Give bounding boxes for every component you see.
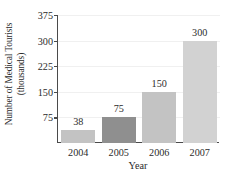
bars-layer: 3875150300: [58, 15, 220, 143]
bar-chart: Number of Medical Tourists (thousands) 3…: [0, 0, 228, 179]
bar-value-label: 300: [183, 27, 217, 38]
x-tick-label: 2005: [96, 147, 142, 158]
y-axis-title-line-1: Number of Medical Tourists: [4, 4, 16, 144]
bar: [61, 130, 95, 143]
bar-value-label: 150: [142, 78, 176, 89]
x-tick-label: 2006: [136, 147, 182, 158]
bar: [142, 92, 176, 143]
x-tick-label: 2004: [55, 147, 101, 158]
x-tick-label: 2007: [177, 147, 223, 158]
plot-area: 37530022515075 3875150300 20042005200620…: [57, 15, 219, 143]
bar-value-label: 38: [61, 116, 95, 127]
y-tick-label: 150: [38, 86, 53, 97]
y-axis-title-line-2: (thousands): [16, 4, 28, 144]
y-tick-label: 225: [38, 61, 53, 72]
y-axis-title: Number of Medical Tourists (thousands): [4, 4, 32, 144]
bar-value-label: 75: [102, 103, 136, 114]
y-tick-label: 300: [38, 35, 53, 46]
bar: [183, 41, 217, 143]
y-tick-label: 375: [38, 10, 53, 21]
x-axis-title: Year: [57, 160, 219, 171]
y-tick-label: 75: [43, 112, 53, 123]
bar: [102, 117, 136, 143]
